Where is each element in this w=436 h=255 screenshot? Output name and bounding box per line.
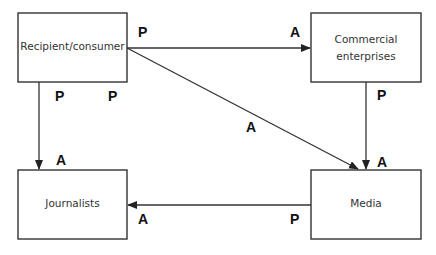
node-label: Journalists: [44, 197, 99, 209]
node-label-line2: enterprises: [336, 50, 395, 62]
node-recipient-consumer: Recipient/consumer: [18, 13, 127, 82]
node-commercial-enterprises: Commercial enterprises: [311, 13, 421, 82]
node-label-line1: Commercial: [335, 33, 398, 45]
edge-label-p: P: [377, 87, 386, 103]
edge-label-a: A: [246, 119, 256, 135]
diagram-canvas: Recipient/consumer Commercial enterprise…: [0, 0, 436, 255]
edge-label-p: P: [108, 88, 117, 104]
edge-label-p: P: [138, 24, 147, 40]
edge-label-p: P: [55, 88, 64, 104]
edge-label-a: A: [377, 154, 387, 170]
node-label: Media: [350, 197, 382, 209]
edge-label-a: A: [290, 24, 300, 40]
node-journalists: Journalists: [18, 170, 127, 239]
edge-label-a: A: [138, 211, 148, 227]
edge-label-a: A: [56, 152, 66, 168]
node-media: Media: [311, 170, 421, 239]
edge-label-p: P: [290, 211, 299, 227]
node-label: Recipient/consumer: [20, 40, 125, 52]
node-box: [311, 13, 421, 82]
